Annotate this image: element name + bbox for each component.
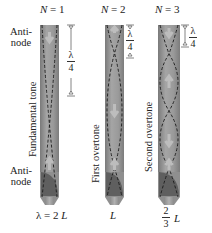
length-variable: L [110,209,116,221]
pipe-1-mode-label: Fundamental tone [27,81,38,157]
wavelength-equation: λ = 2 [36,209,59,221]
pipe-2-quarter-wave-label: λ 4 [126,29,134,52]
numerator: λ [128,29,133,39]
bottom-antinode-label: Anti- node [6,165,36,187]
n-value: = 2 [111,3,125,15]
length-variable: L [174,212,180,224]
pipe-2-mode-label: First overtone [90,124,101,183]
pipe-1-length-label: λ = 2 L [36,209,67,221]
n-symbol: N [155,3,162,15]
length-fraction: 2 3 [162,206,170,229]
pipe-3-length-label: 2 3 L [162,206,180,229]
denominator: 3 [164,219,169,229]
label-line: Anti- [6,26,36,37]
pipe-3 [158,25,189,205]
denominator: 4 [191,39,196,49]
numerator: λ [191,26,196,36]
pipe-1-mode-number: N = 1 [40,3,65,15]
pipe-2 [105,25,134,205]
pipe-3-mode-number: N = 3 [155,3,180,15]
n-value: = 3 [165,3,179,15]
numerator: 2 [164,206,169,216]
length-variable: L [61,209,67,221]
numerator: λ [69,50,74,60]
label-line: Anti- [6,165,36,176]
quarter-wavelength-bracket [181,25,189,47]
pipe-3-quarter-wave-label: λ 4 [189,26,197,49]
pipe-3-mode-label: Second overtone [143,102,154,172]
denominator: 4 [128,42,133,52]
pipe-2-mode-number: N = 2 [101,3,126,15]
n-value: = 1 [50,3,64,15]
n-symbol: N [101,3,108,15]
top-antinode-label: Anti- node [6,26,36,48]
n-symbol: N [40,3,47,15]
label-line: node [6,37,36,48]
pipe-1-quarter-wave-label: λ 4 [67,50,75,73]
label-line: node [6,176,36,187]
denominator: 4 [69,63,74,73]
pipe-2-length-label: L [110,209,116,221]
